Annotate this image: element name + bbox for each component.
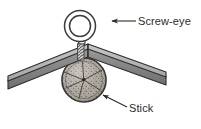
screw-eye-diagram: Screw-eye Stick	[0, 0, 201, 129]
screw-eye-label: Screw-eye	[138, 15, 191, 27]
screw-thread-visible-segment	[77, 44, 84, 60]
screw-eye-ring-inner	[70, 16, 91, 37]
illustration-figure: Screw-eye Stick	[0, 0, 201, 129]
screw-shaft-through-beam	[77, 44, 84, 60]
stick-label: Stick	[129, 102, 154, 114]
stick-center-knot	[82, 78, 85, 81]
